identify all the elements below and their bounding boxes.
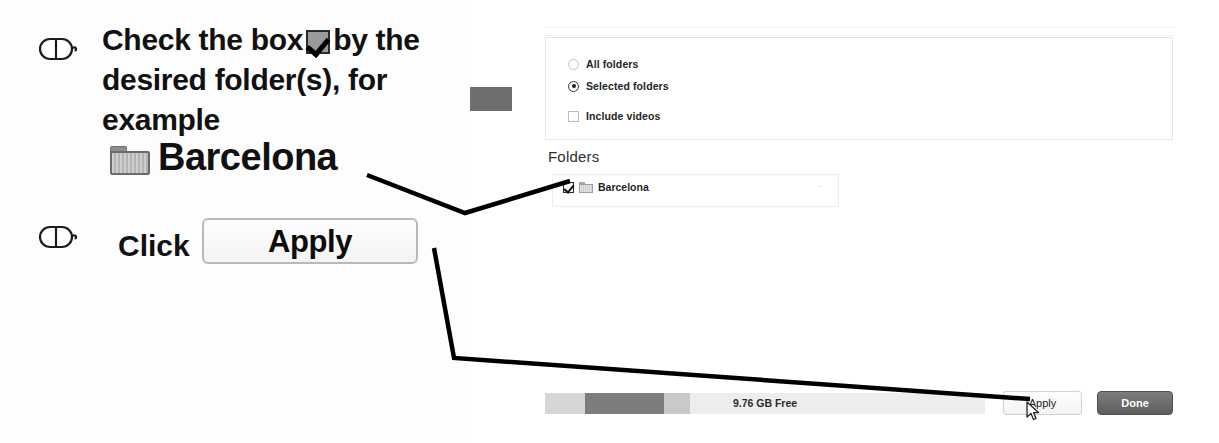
apply-button-illustration-label: Apply	[204, 224, 416, 260]
checkbox-icon-checked[interactable]	[563, 182, 574, 193]
radio-option-selected-folders[interactable]: Selected folders	[568, 80, 669, 92]
redacted-block	[470, 87, 512, 111]
folder-item-marker: ''	[819, 183, 820, 193]
scope-options-box: All folders Selected folders Include vid…	[545, 37, 1173, 140]
checkbox-label-include-videos: Include videos	[586, 110, 660, 122]
capacity-label: 9.76 GB Free	[545, 393, 985, 414]
instruction-step-2-text: Click	[118, 226, 190, 266]
folders-section-heading: Folders	[548, 148, 599, 165]
instruction-folder-name: Barcelona	[158, 136, 337, 178]
folder-icon	[110, 146, 150, 175]
checkbox-icon-unchecked[interactable]	[568, 111, 579, 122]
checked-checkbox-icon	[306, 30, 330, 54]
apply-button[interactable]: Apply	[1003, 391, 1082, 415]
checkbox-option-include-videos[interactable]: Include videos	[568, 110, 660, 122]
done-button[interactable]: Done	[1097, 391, 1173, 415]
radio-icon-unselected[interactable]	[568, 59, 579, 70]
radio-option-all-folders[interactable]: All folders	[568, 58, 638, 70]
radio-label-selected-folders: Selected folders	[586, 80, 669, 92]
instruction-text-before: Check the box	[102, 23, 303, 56]
top-divider-line-secondary	[545, 35, 1175, 36]
apply-button-illustration[interactable]: Apply	[202, 218, 418, 264]
radio-icon-selected[interactable]	[568, 81, 579, 92]
mouse-click-icon	[38, 36, 80, 62]
list-item[interactable]: Barcelona	[563, 181, 649, 193]
instruction-folder-example: Barcelona	[110, 136, 337, 179]
folder-icon	[579, 182, 593, 193]
screenshot-root: Check the boxby the desired folder(s), f…	[0, 0, 1219, 443]
folder-item-label: Barcelona	[598, 181, 649, 193]
folders-list-box: Barcelona ''	[552, 174, 839, 207]
mouse-click-icon	[38, 224, 80, 250]
instruction-step-1-text: Check the boxby the desired folder(s), f…	[102, 20, 442, 140]
arrow-cursor-icon	[1026, 401, 1042, 423]
instruction-panel: Check the boxby the desired folder(s), f…	[0, 0, 470, 443]
radio-label-all-folders: All folders	[586, 58, 638, 70]
top-divider-line	[545, 27, 1175, 28]
